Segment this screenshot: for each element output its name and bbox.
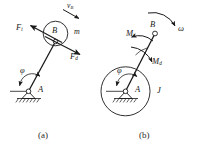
moment-inertia-label-b: Md	[152, 57, 162, 66]
force-inertia-label-a: Fd	[70, 52, 78, 61]
moment-tangential-label-b: Mt	[126, 29, 135, 38]
mechanics-figure: vB Ft Fd B m φ A (a) B ω Mt Md φ A J (b)	[0, 0, 201, 151]
point-a-label-b: A	[135, 85, 140, 94]
force-tangential-arrow-a	[31, 26, 63, 43]
angle-arc-phi-b-tail	[117, 82, 118, 86]
ground-hatching-b	[113, 99, 138, 103]
panel-b-linework	[101, 13, 175, 116]
angle-label-a: φ	[20, 66, 25, 75]
point-a-label-a: A	[38, 85, 43, 94]
pivot-pin-b	[123, 89, 128, 94]
velocity-label-a: vB	[67, 2, 73, 10]
inertia-label-b: J	[157, 86, 161, 95]
figure-linework	[0, 0, 201, 151]
point-b-label-a: B	[52, 26, 57, 35]
force-tangential-label-a: Ft	[16, 23, 23, 32]
angle-arc-phi-b	[118, 74, 138, 82]
caption-panel-a: (a)	[38, 131, 48, 140]
angle-arc-phi-a-tail	[20, 82, 21, 86]
angular-velocity-label-b: ω	[178, 24, 184, 33]
velocity-arrow-a	[63, 10, 79, 19]
rod-ab-b	[126, 34, 156, 92]
ground-hatching-a	[16, 99, 41, 103]
pivot-pin-a	[26, 89, 31, 94]
mass-label-a: m	[74, 28, 80, 36]
caption-panel-b: (b)	[139, 131, 150, 140]
angle-label-b: φ	[117, 66, 122, 75]
end-pin-b	[153, 31, 158, 36]
point-b-label-b: B	[150, 20, 155, 29]
